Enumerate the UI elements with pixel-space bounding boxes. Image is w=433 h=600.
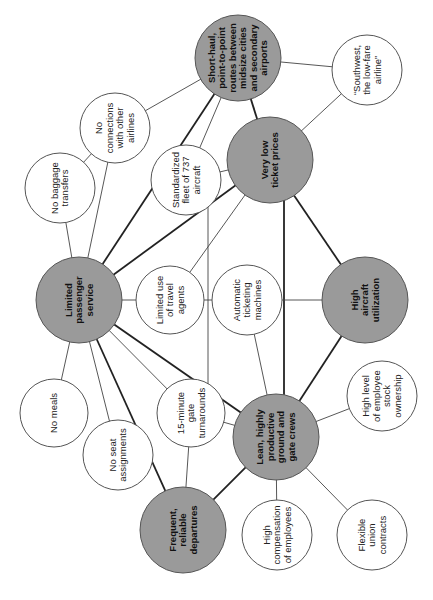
node-label-line: No meals xyxy=(48,393,59,433)
node-label-line: No seat xyxy=(106,438,117,471)
node-label-line: and secondary xyxy=(247,24,258,92)
node-label-line: ground and xyxy=(275,411,286,463)
node-label-line: of travel xyxy=(164,283,175,317)
node-label-line: Frequent, xyxy=(166,508,177,551)
node-label-line: transfers xyxy=(59,169,70,206)
node-union-contracts: Flexibleunioncontracts xyxy=(337,500,407,570)
node-label-line: High level xyxy=(360,375,371,417)
node-label: Lean, highlyproductiveground andgate cre… xyxy=(254,409,297,465)
node-limited-service: Limitedpassengerservice xyxy=(36,257,122,343)
node-label: Automaticticketingmachines xyxy=(230,279,262,321)
node-label-line: of employee xyxy=(370,370,381,422)
node-stock-ownership: High levelof employeestockownership xyxy=(347,361,417,431)
node-label-line: turnarounds xyxy=(195,387,206,438)
node-label-line: Flexible xyxy=(355,519,366,552)
node-label-line: utilization xyxy=(369,278,380,323)
activity-system-diagram: Short-haul,point-to-pointroutes betweenm… xyxy=(0,0,433,600)
node-label-line: contracts xyxy=(376,515,387,554)
node-label-line: productive xyxy=(264,413,275,462)
node-label-line: routes between xyxy=(226,23,237,93)
node-label-line: Limited xyxy=(62,283,73,317)
node-label-line: airports xyxy=(258,40,269,75)
node-label-line: Automatic xyxy=(230,279,241,321)
node-label-line: ownership xyxy=(391,374,402,417)
node-label: No baggagetransfers xyxy=(48,162,70,214)
node-label-line: aircraft xyxy=(190,165,201,194)
node-label-line: fleet of 737 xyxy=(180,156,191,203)
node-label-line: Standardized xyxy=(169,152,180,208)
node-label-line: passenger xyxy=(73,276,84,324)
node-short-haul: Short-haul,point-to-pointroutes betweenm… xyxy=(195,15,281,101)
node-label-line: connections xyxy=(103,102,114,153)
node-label-line: No baggage xyxy=(48,162,59,214)
node-label-line: the low-fare xyxy=(361,45,372,95)
node-label-line: High xyxy=(260,525,271,545)
node-southwest: “Southwest,the low-fareairline” xyxy=(332,35,402,105)
node-label-line: of employees xyxy=(281,507,292,564)
node-lean-crews: Lean, highlyproductiveground andgate cre… xyxy=(233,394,319,480)
node-no-meals: No meals xyxy=(20,379,88,447)
node-label-line: Very low xyxy=(258,140,269,179)
node-very-low-prices: Very lowticket prices xyxy=(227,117,313,203)
node-label-line: union xyxy=(366,523,377,546)
node-label-line: Short-haul, xyxy=(205,33,216,83)
node-no-seat: No seatassignments xyxy=(83,420,153,490)
node-label-line: midsize cities xyxy=(237,27,248,89)
node-label-line: ticketing xyxy=(241,283,252,318)
node-label-line: point-to-point xyxy=(216,26,227,89)
node-no-connections: Noconnectionswith otherairlines xyxy=(80,93,150,163)
node-gate-turnarounds: 15-minutegateturnarounds xyxy=(157,379,225,447)
node-label-line: compensation xyxy=(271,505,282,564)
node-ticketing-machines: Automaticticketingmachines xyxy=(212,265,282,335)
node-label-line: gate crews xyxy=(285,412,296,461)
node-frequent-departures: Frequent,reliabledepartures xyxy=(140,487,226,573)
node-label-line: agents xyxy=(174,285,185,314)
node-label-line: No xyxy=(93,122,104,134)
node-travel-agents: Limited useof travelagents xyxy=(136,266,204,334)
node-label-line: Lean, highly xyxy=(254,409,265,465)
node-label-line: “Southwest, xyxy=(350,45,361,95)
node-standardized-fleet: Standardizedfleet of 737aircraft xyxy=(151,145,221,215)
node-label-line: departures xyxy=(187,505,198,554)
node-label-line: airlines xyxy=(124,113,135,143)
node-layer: Short-haul,point-to-pointroutes betweenm… xyxy=(20,15,417,573)
node-label-line: aircraft xyxy=(359,283,370,316)
node-label-line: assignments xyxy=(117,428,128,482)
node-label-line: stock xyxy=(381,385,392,407)
node-label: No meals xyxy=(48,393,59,433)
node-label-line: Limited use xyxy=(153,276,164,325)
node-label-line: gate xyxy=(185,404,196,423)
node-high-compensation: Highcompensationof employees xyxy=(242,500,312,570)
node-label-line: ticket prices xyxy=(269,132,280,187)
node-no-baggage: No baggagetransfers xyxy=(25,153,95,223)
node-label-line: airline” xyxy=(371,56,382,85)
node-label: High levelof employeestockownership xyxy=(360,370,403,422)
node-label-line: machines xyxy=(251,279,262,320)
node-high-utilization: Highaircraftutilization xyxy=(322,257,408,343)
node-label-line: High xyxy=(348,289,359,310)
node-label-line: with other xyxy=(114,107,125,149)
node-label-line: reliable xyxy=(177,513,188,546)
node-label-line: service xyxy=(83,284,94,317)
node-label-line: 15-minute xyxy=(174,392,185,434)
